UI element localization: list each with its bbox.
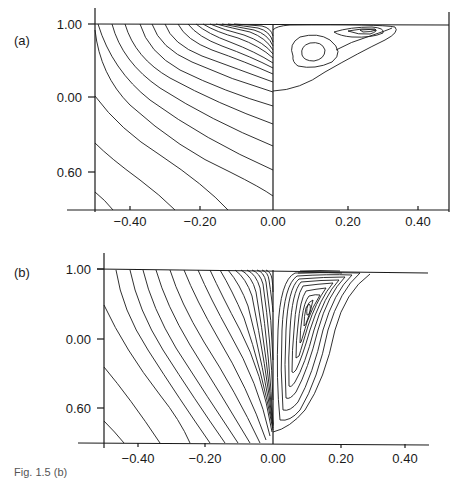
panel-a-xtick-1: −0.40 (114, 214, 147, 229)
panel-b-xtick-5: 0.40 (392, 451, 417, 466)
panel-b-xtick-4: 0.20 (328, 451, 353, 466)
figure-caption: Fig. 1.5 (b) (14, 466, 67, 478)
panel-a-ytick-3: 0.60 (57, 165, 82, 180)
panel-b-right-eddy (273, 271, 370, 433)
panel-a-left-contours (95, 24, 273, 210)
panel-b-ytick-3: 0.60 (66, 401, 91, 416)
panel-a-xtick-3: 0.00 (260, 214, 285, 229)
panel-b-left-contours (104, 270, 273, 443)
panel-b-xtick-2: −0.20 (189, 451, 222, 466)
panel-b-xtick-1: −0.40 (122, 451, 155, 466)
panel-a-ytick-2: 0.00 (57, 90, 82, 105)
panel-b: (b) 1.00 0.00 0.60 −0.40 −0.20 0.00 0.20… (14, 253, 429, 466)
panel-a-ytick-1: 1.00 (57, 17, 82, 32)
panel-a-right-eddy (273, 25, 396, 91)
panel-b-label: (b) (14, 265, 30, 280)
panel-b-xtick-3: 0.00 (260, 451, 285, 466)
panel-a-xtick-2: −0.20 (184, 214, 217, 229)
panel-a-xtick-5: 0.40 (405, 214, 430, 229)
panel-b-ytick-1: 1.00 (66, 262, 91, 277)
panel-b-ytick-2: 0.00 (66, 332, 91, 347)
panel-a-label: (a) (14, 33, 30, 48)
panel-a: (a) 1.00 0.00 0.60 −0.40 −0.20 0.00 0.20… (14, 8, 449, 229)
panel-a-xtick-4: 0.20 (335, 214, 360, 229)
panel-a-axes (67, 8, 449, 212)
panel-b-axes (78, 253, 429, 448)
